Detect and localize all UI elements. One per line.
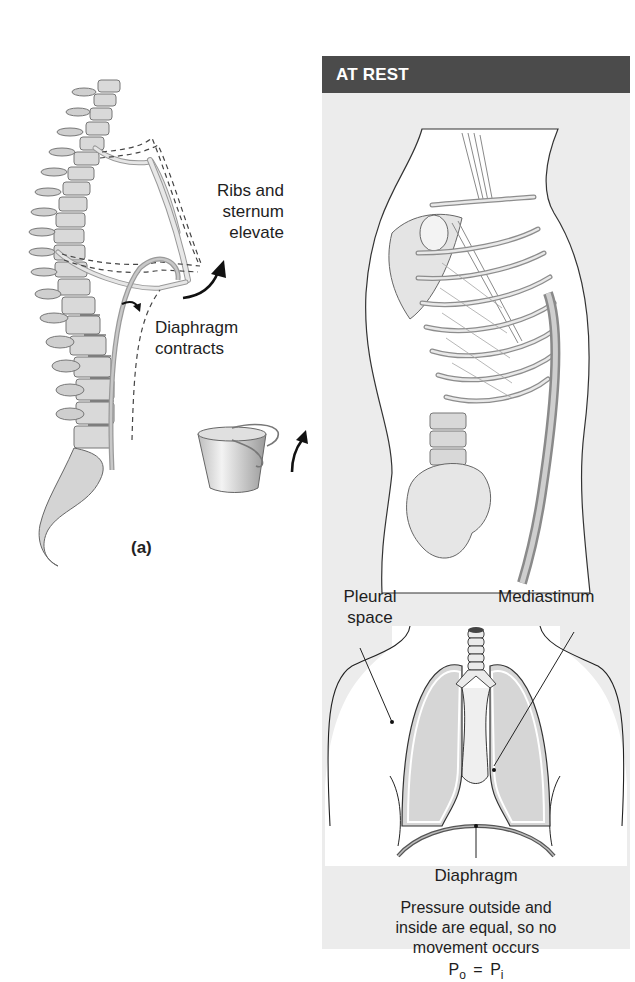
equation-lhs: P xyxy=(449,961,460,978)
label-line: Pleural xyxy=(340,586,400,607)
label-ribs-sternum-elevate: Ribs and sternum elevate xyxy=(204,180,284,243)
equation-operator: = xyxy=(470,961,485,978)
label-line: Diaphragm xyxy=(155,317,238,338)
label-line: Ribs and xyxy=(204,180,284,201)
label-line: space xyxy=(340,607,400,628)
at-rest-panel: AT REST xyxy=(322,56,630,949)
label-line: contracts xyxy=(155,338,238,359)
pressure-equation: Po = Pi xyxy=(322,961,630,982)
equation-rhs-sub: i xyxy=(501,968,504,982)
spine-ribcage-illustration xyxy=(0,0,320,600)
caption-line: movement occurs xyxy=(322,938,630,958)
label-pleural-space: Pleural space xyxy=(340,586,400,628)
equation-lhs-sub: o xyxy=(459,968,466,982)
panel-a-label: (a) xyxy=(131,538,152,558)
label-line: elevate xyxy=(204,222,284,243)
caption-line: inside are equal, so no xyxy=(322,918,630,938)
lateral-thorax-muscles-illustration xyxy=(322,93,630,613)
bucket-handle-icon xyxy=(192,420,302,500)
label-diaphragm-contracts: Diaphragm contracts xyxy=(155,317,238,359)
pressure-caption: Pressure outside and inside are equal, s… xyxy=(322,898,630,958)
caption-line: Pressure outside and xyxy=(322,898,630,918)
curved-arrow-icon xyxy=(288,428,312,474)
panel-header: AT REST xyxy=(322,56,630,93)
label-diaphragm: Diaphragm xyxy=(322,865,630,886)
lungs-diagram-illustration xyxy=(322,626,630,866)
label-line: sternum xyxy=(204,201,284,222)
label-mediastinum: Mediastinum xyxy=(498,586,594,607)
equation-rhs: P xyxy=(490,961,501,978)
